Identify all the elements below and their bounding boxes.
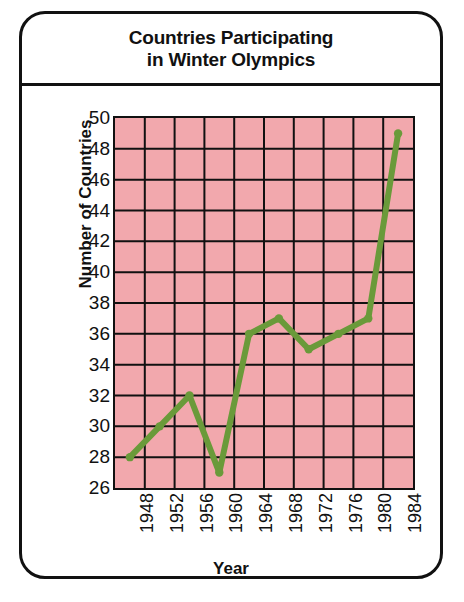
y-tick-label: 36 xyxy=(89,323,110,345)
x-tick-label: 1984 xyxy=(405,493,426,533)
y-tick-label: 50 xyxy=(89,107,110,129)
y-tick-label: 40 xyxy=(89,261,110,283)
chart-card: Countries Participating in Winter Olympi… xyxy=(19,11,443,579)
y-tick-label: 48 xyxy=(89,138,110,160)
x-tick-label: 1952 xyxy=(167,493,188,533)
chart-title: Countries Participating in Winter Olympi… xyxy=(22,14,440,83)
x-tick-label: 1976 xyxy=(346,493,367,533)
y-tick-label: 38 xyxy=(89,292,110,314)
plot-area-wrapper xyxy=(113,116,415,490)
y-tick-label: 34 xyxy=(89,354,110,376)
y-tick-label: 42 xyxy=(89,230,110,252)
x-tick-label: 1960 xyxy=(226,493,247,533)
y-tick-label: 46 xyxy=(89,169,110,191)
plot-area xyxy=(113,116,415,490)
y-tick-label: 32 xyxy=(89,385,110,407)
chart-title-line-1: Countries Participating xyxy=(129,27,333,49)
x-axis-tick-labels: 1948195219561960196419681972197619801984 xyxy=(113,493,415,559)
x-tick-label: 1956 xyxy=(197,493,218,533)
data-series-line xyxy=(115,118,413,488)
chart-title-line-2: in Winter Olympics xyxy=(147,49,315,71)
x-tick-label: 1980 xyxy=(375,493,396,533)
y-tick-label: 28 xyxy=(89,446,110,468)
y-tick-label: 44 xyxy=(89,200,110,222)
x-axis-title: Year xyxy=(22,559,440,579)
x-tick-label: 1964 xyxy=(256,493,277,533)
y-tick-label: 26 xyxy=(89,477,110,499)
x-tick-label: 1972 xyxy=(316,493,337,533)
y-tick-label: 30 xyxy=(89,415,110,437)
title-divider xyxy=(22,83,440,86)
x-tick-label: 1948 xyxy=(137,493,158,533)
x-tick-label: 1968 xyxy=(286,493,307,533)
y-axis-tick-labels: 50484644424038363432302826 xyxy=(58,116,110,490)
